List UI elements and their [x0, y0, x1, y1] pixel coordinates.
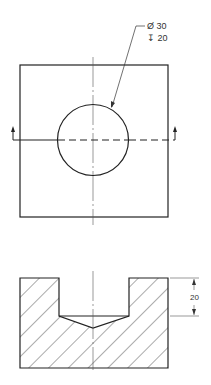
dimension-arrow-down-icon [192, 309, 196, 315]
depth-dimension-value: 20 [190, 293, 199, 302]
arrow-up-icon [11, 126, 15, 132]
dimension-arrow-up-icon [192, 279, 196, 285]
depth-label: ↧ 20 [147, 33, 168, 43]
top-view-outline [20, 65, 168, 217]
section-hatching [20, 278, 168, 368]
callout-leader [111, 26, 145, 108]
section-view: 20 [20, 271, 199, 370]
top-view: Ø 30 ↧ 20 [11, 21, 177, 225]
technical-drawing: Ø 30 ↧ 20 20 [0, 0, 211, 385]
arrow-up-icon [173, 126, 177, 132]
depth-dimension: 20 [170, 278, 199, 316]
section-arrow-left [11, 126, 15, 140]
diameter-label: Ø 30 [147, 21, 167, 31]
leader-arrowhead-icon [111, 101, 115, 108]
section-arrow-right [173, 126, 177, 140]
